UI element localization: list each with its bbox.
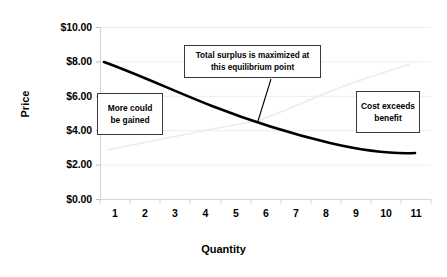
annotation-more-gained-line2: be gained xyxy=(110,114,149,126)
y-axis-title: Price xyxy=(19,74,31,134)
price-quantity-chart: $10.00 $8.00 $6.00 $4.00 $2.00 $0.00 1 2… xyxy=(0,0,447,277)
x-tick-label-9: 9 xyxy=(341,207,371,219)
annotation-cost-exceeds-line1: Cost exceeds xyxy=(361,100,415,112)
y-tick-label-6: $6.00 xyxy=(26,90,92,102)
x-tick-label-6: 6 xyxy=(251,207,281,219)
x-axis-title: Quantity xyxy=(0,243,447,255)
y-tick-label-10: $10.00 xyxy=(26,21,92,33)
annotation-equilibrium-line1: Total surplus is maximized at xyxy=(196,50,310,62)
y-tick-label-0: $0.00 xyxy=(26,193,92,205)
x-tick-label-5: 5 xyxy=(221,207,251,219)
chart-canvas xyxy=(0,0,447,277)
annotation-more-could-be-gained: More could be gained xyxy=(97,93,163,135)
x-tick-label-3: 3 xyxy=(160,207,190,219)
y-tick-label-2: $2.00 xyxy=(26,158,92,170)
x-tick-label-1: 1 xyxy=(100,207,130,219)
y-tick-label-8: $8.00 xyxy=(26,55,92,67)
x-tick-label-11: 11 xyxy=(401,207,431,219)
y-tick-label-4: $4.00 xyxy=(26,124,92,136)
x-tick-label-10: 10 xyxy=(371,207,401,219)
annotation-equilibrium-line2: this equilibrium point xyxy=(211,62,294,74)
annotation-more-gained-line1: More could xyxy=(108,102,153,114)
x-tick-label-7: 7 xyxy=(281,207,311,219)
annotation-cost-exceeds-line2: benefit xyxy=(374,112,401,124)
x-tick-label-8: 8 xyxy=(311,207,341,219)
annotation-cost-exceeds-benefit: Cost exceeds benefit xyxy=(356,91,420,133)
annotation-equilibrium: Total surplus is maximized at this equil… xyxy=(184,45,321,78)
x-tick-label-4: 4 xyxy=(190,207,221,219)
x-tick-label-2: 2 xyxy=(130,207,160,219)
x-axis-ticks xyxy=(100,200,431,204)
